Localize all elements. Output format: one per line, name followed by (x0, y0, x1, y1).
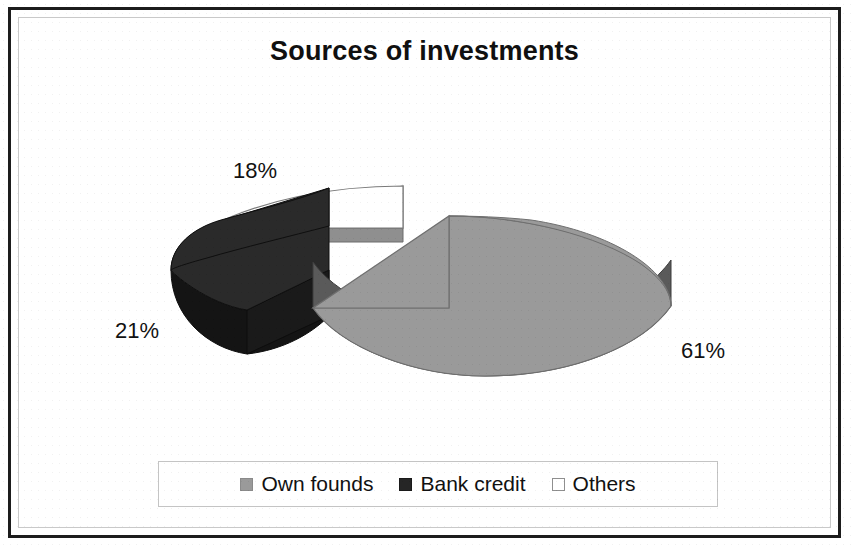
legend-square-white-icon (552, 478, 565, 491)
legend-square-black-icon (399, 478, 412, 491)
chart-outer-frame: Sources of investments (8, 7, 841, 538)
legend-items: Own founds Bank credit Others (240, 472, 635, 496)
chart-page: Sources of investments (0, 0, 853, 552)
pie-label-own-founds: 61% (681, 338, 725, 364)
legend-entry-own-founds: Own founds (240, 472, 373, 496)
legend-entry-others: Others (552, 472, 636, 496)
legend-entry-bank-credit: Bank credit (399, 472, 525, 496)
legend-label-bank-credit: Bank credit (420, 472, 525, 496)
pie-label-others: 18% (233, 158, 277, 184)
legend-square-gray-icon (240, 478, 253, 491)
chart-legend: Own founds Bank credit Others (158, 461, 718, 507)
legend-label-others: Others (573, 472, 636, 496)
chart-title: Sources of investments (11, 36, 838, 67)
pie-chart-graphic (11, 120, 838, 440)
legend-label-own-founds: Own founds (261, 472, 373, 496)
pie-label-bank-credit: 21% (115, 318, 159, 344)
